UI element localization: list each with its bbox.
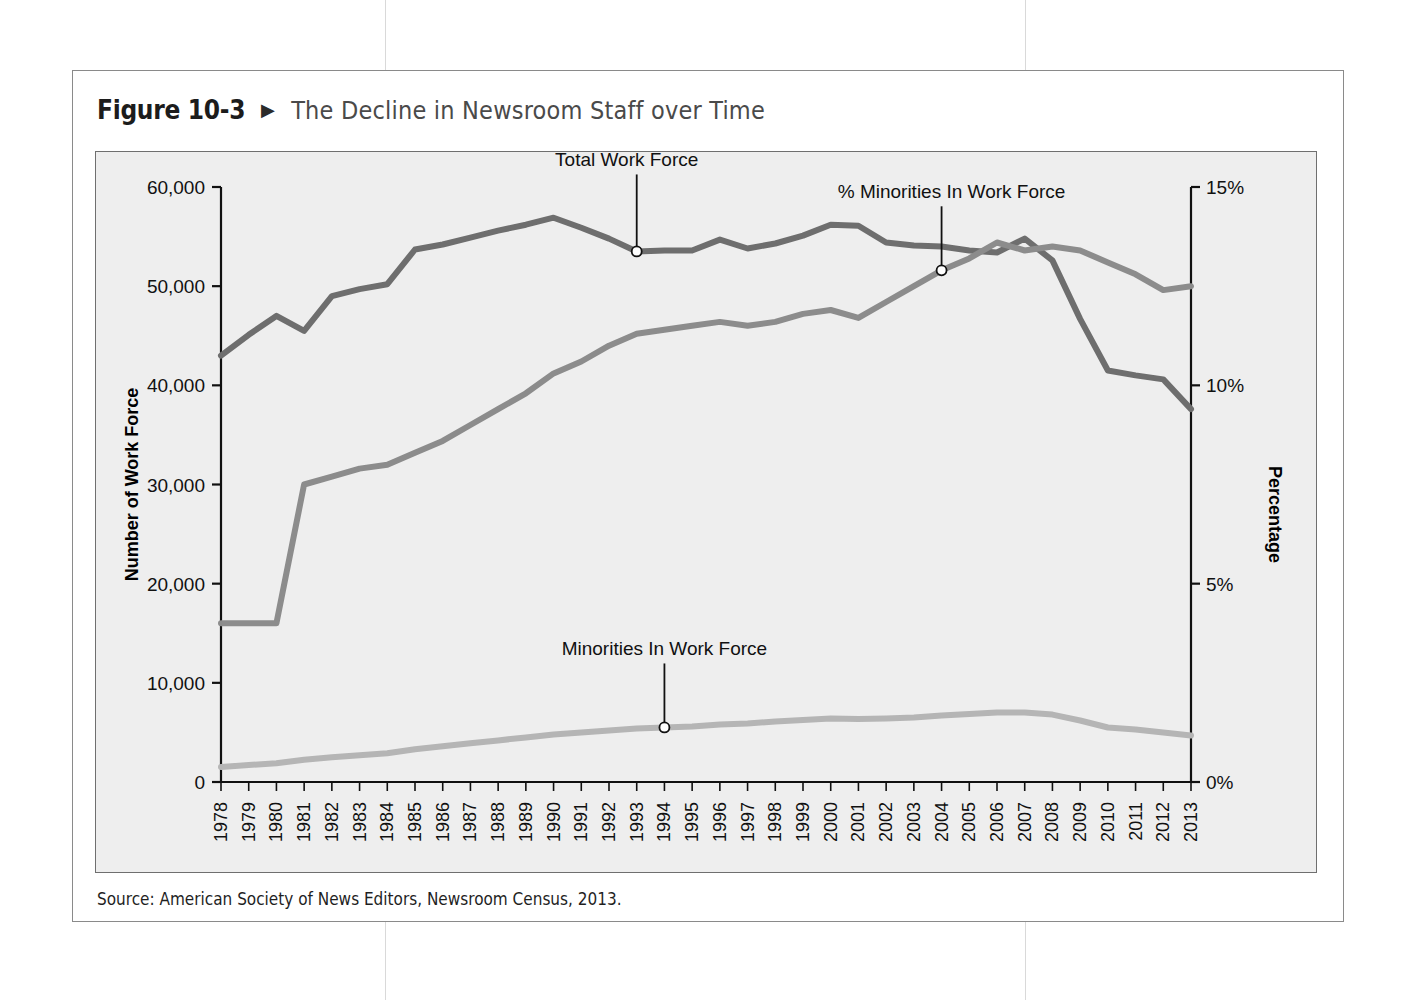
y-tick-label-left: 10,000: [147, 673, 205, 694]
series-line-minorities-in-work-force: [221, 713, 1191, 768]
x-tick-label: 2006: [987, 802, 1007, 842]
x-tick-label: 2001: [848, 802, 868, 842]
y-tick-label-left: 60,000: [147, 177, 205, 198]
x-tick-label: 2008: [1042, 802, 1062, 842]
annotation-label: % Minorities In Work Force: [838, 181, 1066, 202]
annotation-label: Total Work Force: [555, 152, 698, 170]
x-tick-label: 1997: [738, 802, 758, 842]
y-tick-label-left: 20,000: [147, 574, 205, 595]
x-tick-label: 1996: [710, 802, 730, 842]
x-tick-label: 2005: [959, 802, 979, 842]
y-axis-title-left: Number of Work Force: [122, 388, 142, 582]
x-tick-label: 1994: [654, 802, 674, 842]
x-tick-label: 1999: [793, 802, 813, 842]
x-tick-label: 2012: [1153, 802, 1173, 842]
y-tick-label-right: 5%: [1206, 574, 1234, 595]
x-tick-label: 2007: [1015, 802, 1035, 842]
y-tick-label-left: 0: [194, 772, 205, 793]
x-tick-label: 1985: [405, 802, 425, 842]
x-tick-label: 1992: [599, 802, 619, 842]
annotation-label: Minorities In Work Force: [562, 638, 768, 659]
y-tick-label-left: 40,000: [147, 375, 205, 396]
series-line-minorities-in-work-force: [221, 243, 1191, 624]
x-tick-label: 1995: [682, 802, 702, 842]
chart-panel: 010,00020,00030,00040,00050,00060,0000%5…: [95, 151, 1317, 873]
figure-title: The Decline in Newsroom Staff over Time: [291, 96, 765, 125]
x-tick-label: 1986: [433, 802, 453, 842]
x-tick-label: 1984: [377, 802, 397, 842]
y-tick-label-left: 30,000: [147, 475, 205, 496]
x-tick-label: 1988: [488, 802, 508, 842]
y-tick-label-right: 0%: [1206, 772, 1234, 793]
annotation-marker: [937, 265, 947, 275]
x-tick-label: 1991: [571, 802, 591, 842]
y-tick-label-left: 50,000: [147, 276, 205, 297]
x-tick-label: 2009: [1070, 802, 1090, 842]
x-tick-label: 2002: [876, 802, 896, 842]
x-tick-label: 1980: [266, 802, 286, 842]
annotation-marker: [659, 722, 669, 732]
annotation-marker: [632, 246, 642, 256]
x-tick-label: 1983: [350, 802, 370, 842]
x-tick-label: 1982: [322, 802, 342, 842]
figure-header: Figure 10-3 ▶ The Decline in Newsroom St…: [97, 95, 765, 125]
x-tick-label: 2000: [821, 802, 841, 842]
y-tick-label-right: 15%: [1206, 177, 1244, 198]
x-tick-label: 1978: [211, 802, 231, 842]
x-tick-label: 2003: [904, 802, 924, 842]
x-tick-label: 1987: [460, 802, 480, 842]
x-tick-label: 2010: [1098, 802, 1118, 842]
x-tick-label: 1993: [627, 802, 647, 842]
x-tick-label: 1998: [765, 802, 785, 842]
x-tick-label: 2004: [932, 802, 952, 842]
figure-source-note: Source: American Society of News Editors…: [97, 889, 622, 909]
x-tick-label: 1990: [544, 802, 564, 842]
line-chart: 010,00020,00030,00040,00050,00060,0000%5…: [96, 152, 1316, 872]
y-tick-label-right: 10%: [1206, 375, 1244, 396]
x-tick-label: 1981: [294, 802, 314, 842]
x-tick-label: 1989: [516, 802, 536, 842]
figure-number: Figure 10-3: [97, 95, 245, 125]
x-tick-label: 1979: [239, 802, 259, 842]
x-tick-label: 2011: [1126, 802, 1146, 841]
triangle-right-icon: ▶: [261, 99, 275, 121]
figure-container: Figure 10-3 ▶ The Decline in Newsroom St…: [72, 70, 1344, 922]
y-axis-title-right: Percentage: [1265, 466, 1285, 563]
x-tick-label: 2013: [1181, 802, 1201, 842]
